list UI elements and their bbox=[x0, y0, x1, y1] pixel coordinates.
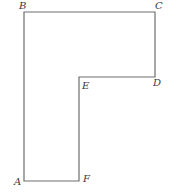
vertex-labels: A B C D E F bbox=[13, 0, 163, 187]
vertex-label-d: D bbox=[152, 77, 161, 88]
vertex-label-b: B bbox=[18, 0, 26, 11]
l-shape-outline bbox=[24, 12, 155, 181]
l-shape-diagram: A B C D E F bbox=[0, 0, 171, 192]
vertex-label-a: A bbox=[13, 176, 21, 187]
vertex-label-c: C bbox=[155, 0, 163, 11]
vertex-label-f: F bbox=[82, 173, 91, 184]
vertex-label-e: E bbox=[81, 80, 90, 91]
